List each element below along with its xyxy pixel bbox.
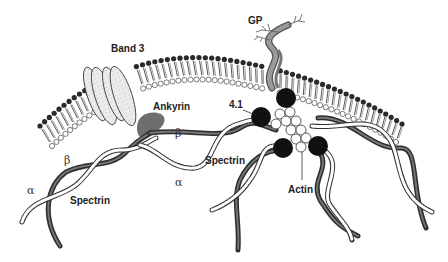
- label-beta-center: β: [175, 127, 181, 140]
- label-band3: Band 3: [111, 43, 145, 54]
- protein41-leader-line: [243, 110, 253, 114]
- band3-protein: [79, 64, 141, 129]
- label-actin: Actin: [288, 184, 313, 195]
- label-ankyrin: Ankyrin: [153, 101, 190, 112]
- label-protein-4-1: 4.1: [229, 99, 243, 110]
- membrane-skeleton-diagram: Band 3 GP Ankyrin 4.1 Actin Spectrin Spe…: [0, 0, 448, 262]
- label-spectrin-center: Spectrin: [205, 155, 245, 166]
- label-gp: GP: [248, 15, 263, 26]
- label-alpha-center: α: [175, 176, 183, 189]
- label-spectrin-left: Spectrin: [70, 195, 110, 206]
- spectrin-filaments: [22, 118, 432, 250]
- label-beta-left: β: [64, 154, 70, 167]
- label-alpha-left: α: [27, 184, 35, 197]
